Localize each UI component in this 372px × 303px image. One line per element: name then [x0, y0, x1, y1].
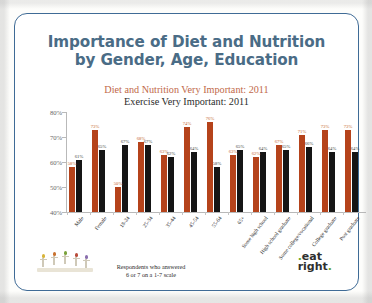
bar-exercise — [237, 150, 243, 213]
x-axis-tick-label: 35-44 — [164, 215, 176, 229]
chart-plot-area: 40%50%60%70%80% 58%61%73%65%50%67%68%67%… — [41, 112, 366, 212]
bar-group: 50%67% — [113, 112, 136, 212]
y-axis-labels: 40%50%60%70%80% — [41, 112, 64, 212]
footnote-line-1: Respondents who answered — [81, 263, 221, 271]
association-emblem — [37, 246, 93, 274]
bar-diet-nutrition — [253, 157, 259, 212]
y-axis-tick-label: 40% — [50, 209, 62, 216]
footnote-line-2: 6 or 7 on a 1-7 scale — [81, 271, 221, 279]
title-line-1: Importance of Diet and Nutrition — [35, 34, 338, 52]
slide-frame: Importance of Diet and Nutrition by Gend… — [14, 13, 359, 291]
bar-diet-nutrition — [115, 187, 121, 212]
x-axis-tick-label: Female — [93, 215, 108, 231]
y-axis-tick-mark — [62, 137, 66, 138]
bar-diet-nutrition — [184, 127, 190, 212]
emblem-figure — [40, 254, 47, 267]
bar-exercise — [76, 160, 82, 213]
bar-group: 63%62% — [159, 112, 182, 212]
x-axis-tick-label: 65+ — [235, 215, 245, 225]
bar-diet-nutrition — [207, 122, 213, 212]
bar-diet-nutrition — [276, 145, 282, 213]
bar-group: 67%65% — [274, 112, 297, 212]
bar-value-label-diet: 73% — [344, 124, 352, 129]
logo-dot-2: . — [328, 260, 332, 273]
bar-exercise — [283, 150, 289, 213]
bar-value-label-exercise: 62% — [167, 151, 175, 156]
emblem-base — [37, 268, 93, 272]
bar-value-label-diet: 76% — [206, 116, 214, 121]
bar-value-label-exercise: 66% — [305, 141, 313, 146]
bar-group: 58%61% — [67, 112, 90, 212]
bar-diet-nutrition — [161, 155, 167, 213]
slide-page: Importance of Diet and Nutrition by Gend… — [0, 0, 372, 303]
subtitle-exercise: Exercise Very Important: 2011 — [35, 96, 338, 107]
bar-value-label-exercise: 65% — [236, 144, 244, 149]
bar-value-label-exercise: 65% — [282, 144, 290, 149]
y-axis-tick-label: 70% — [50, 134, 62, 141]
bar-exercise — [122, 145, 128, 213]
bar-group: 63%65% — [228, 112, 251, 212]
x-axis-line — [66, 212, 366, 213]
bar-diet-nutrition — [69, 167, 75, 212]
bar-diet-nutrition — [299, 135, 305, 213]
bar-value-label-exercise: 58% — [213, 161, 221, 166]
x-axis-tick-label: 18-24 — [118, 215, 130, 229]
y-axis-tick-mark — [62, 187, 66, 188]
bar-exercise — [168, 157, 174, 212]
bar-exercise — [214, 167, 220, 212]
bar-value-label-diet: 74% — [183, 121, 191, 126]
y-axis-tick-mark — [62, 112, 66, 113]
bar-group: 76%58% — [205, 112, 228, 212]
x-axis-tick-label: 55-64 — [210, 215, 222, 229]
bar-value-label-exercise: 65% — [98, 144, 106, 149]
bar-group: 62%64% — [251, 112, 274, 212]
bar-value-label-diet: 73% — [91, 124, 99, 129]
x-axis-tick-label: Post graduate — [338, 215, 361, 242]
bar-exercise — [191, 152, 197, 212]
bar-diet-nutrition — [322, 130, 328, 213]
bar-exercise — [352, 152, 358, 212]
bar-exercise — [99, 150, 105, 213]
x-axis-tick-label: Male — [73, 215, 85, 227]
title-line-2: by Gender, Age, Education — [35, 52, 338, 70]
y-axis-tick-label: 50% — [50, 184, 62, 191]
page-title: Importance of Diet and Nutrition by Gend… — [35, 34, 338, 69]
bar-group: 73%64% — [343, 112, 366, 212]
subtitle-diet: Diet and Nutrition Very Important: 2011 — [35, 84, 338, 95]
bar-value-label-exercise: 64% — [190, 146, 198, 151]
bar-value-label-diet: 50% — [114, 181, 122, 186]
bar-value-label-exercise: 61% — [75, 154, 83, 159]
logo-right-text: right — [298, 260, 328, 273]
y-axis-tick-mark — [62, 162, 66, 163]
emblem-figure — [51, 252, 58, 265]
bar-group: 68%67% — [136, 112, 159, 212]
x-axis-tick-label: 25-34 — [141, 215, 153, 229]
bar-value-label-diet: 63% — [229, 149, 237, 154]
bar-value-label-exercise: 64% — [351, 146, 359, 151]
bar-exercise — [260, 152, 266, 212]
y-axis-tick-label: 80% — [50, 109, 62, 116]
bar-value-label-exercise: 67% — [121, 139, 129, 144]
bar-groups: 58%61%73%65%50%67%68%67%63%62%74%64%76%5… — [67, 112, 366, 212]
x-axis-tick-label: College graduate — [310, 215, 337, 248]
y-axis-tick-mark — [62, 212, 66, 213]
bar-value-label-diet: 71% — [298, 129, 306, 134]
bar-value-label-diet: 62% — [252, 151, 260, 156]
bar-diet-nutrition — [138, 142, 144, 212]
emblem-figure — [83, 255, 90, 268]
bar-diet-nutrition — [230, 155, 236, 213]
x-axis-tick-label: 45-54 — [187, 215, 199, 229]
bar-group: 74%64% — [182, 112, 205, 212]
bar-exercise — [329, 152, 335, 212]
bar-exercise — [145, 145, 151, 213]
chart-footnote: Respondents who answered 6 or 7 on a 1-7… — [81, 263, 221, 279]
bar-diet-nutrition — [345, 130, 351, 213]
bar-value-label-exercise: 67% — [144, 139, 152, 144]
bar-exercise — [306, 147, 312, 212]
bar-group: 71%66% — [297, 112, 320, 212]
eat-right-logo: .eat right. — [298, 252, 332, 272]
emblem-figure — [73, 253, 80, 266]
bar-group: 73%65% — [90, 112, 113, 212]
bar-value-label-exercise: 64% — [259, 146, 267, 151]
bar-group: 73%64% — [320, 112, 343, 212]
